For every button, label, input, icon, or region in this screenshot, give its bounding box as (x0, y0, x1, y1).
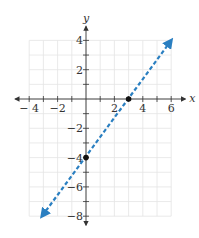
y-tick-labels: 42−2−4−6−8 (67, 34, 83, 223)
y-intercept-point (83, 155, 89, 161)
x-tick-label: 6 (168, 102, 175, 115)
x-tick-labels: − 4−2246 (19, 102, 174, 115)
x-intercept-point (126, 96, 132, 102)
x-tick-label: − 4 (19, 102, 39, 115)
y-tick-label: −6 (67, 181, 83, 194)
x-tick-label: −2 (49, 102, 65, 115)
x-axis-title: x (189, 92, 196, 105)
coordinate-graph: − 4−2246 42−2−4−6−8 x y (0, 0, 199, 238)
y-tick-label: 4 (76, 34, 83, 47)
grid (29, 40, 171, 216)
y-axis-title: y (82, 12, 90, 25)
y-tick-label: 2 (76, 64, 83, 77)
x-tick-label: 4 (139, 102, 146, 115)
y-tick-label: −8 (67, 210, 83, 223)
y-tick-label: −2 (67, 122, 83, 135)
